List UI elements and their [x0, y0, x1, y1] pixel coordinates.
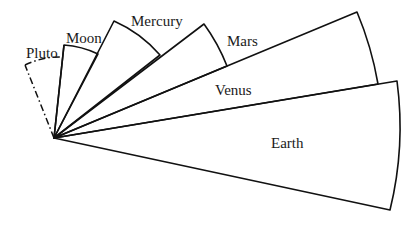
label-pluto: Pluto	[26, 45, 58, 61]
planet-sector-diagram: Pluto Moon Mercury Mars Venus Earth	[0, 0, 418, 226]
sector-moon	[54, 45, 98, 138]
label-venus: Venus	[215, 82, 252, 98]
label-mercury: Mercury	[131, 13, 183, 29]
sector-earth	[54, 81, 400, 210]
sector-venus	[54, 12, 378, 138]
label-mars: Mars	[227, 33, 258, 49]
label-moon: Moon	[66, 30, 102, 46]
sector-pluto	[25, 57, 63, 138]
label-earth: Earth	[271, 135, 304, 151]
